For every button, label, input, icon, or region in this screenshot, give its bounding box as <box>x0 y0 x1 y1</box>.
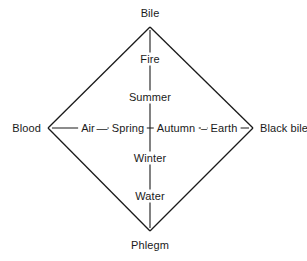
axis-label-water: Water <box>133 190 166 203</box>
axis-label-summer: Summer <box>127 91 173 104</box>
corner-label-phlegm: Phlegm <box>129 239 171 252</box>
axis-label-winter: Winter <box>132 152 168 165</box>
axis-label-fire: Fire <box>138 53 161 66</box>
connector-autumn-earth: – <box>201 122 207 135</box>
corner-label-blood: Blood <box>10 122 43 135</box>
diamond-edge-bottom-right <box>150 128 253 231</box>
axis-label-spring: Spring <box>109 122 147 135</box>
four-humours-diagram: Bile Phlegm Blood Black bile Fire Summer… <box>0 0 307 261</box>
diamond-edge-top-right <box>150 27 253 128</box>
corner-label-bile: Bile <box>139 7 162 20</box>
diamond-edge-top-left <box>48 27 150 128</box>
axis-label-autumn: Autumn <box>154 122 199 135</box>
diamond-edge-bottom-left <box>48 128 150 231</box>
connector-air-spring: — <box>96 122 107 135</box>
axis-label-air: Air <box>78 122 98 135</box>
corner-label-black-bile: Black bile <box>258 122 307 135</box>
axis-label-earth: Earth <box>208 122 241 135</box>
